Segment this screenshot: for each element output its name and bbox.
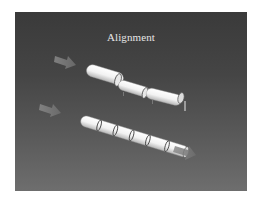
misaligned-shaft-assembly — [85, 63, 186, 111]
alignment-diagram — [15, 12, 247, 191]
input-arrow-bottom — [39, 104, 61, 117]
input-arrow-top — [54, 56, 76, 69]
presentation-slide: Alignment — [15, 12, 247, 191]
